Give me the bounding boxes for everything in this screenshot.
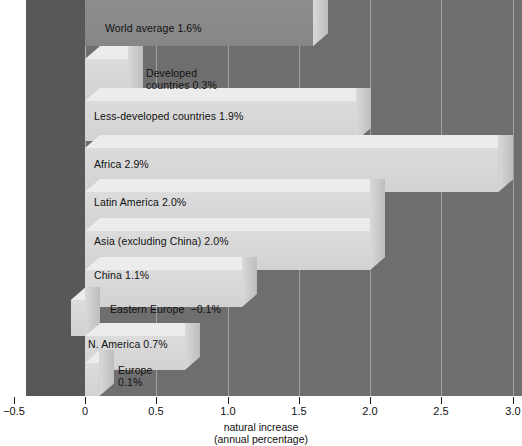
bar-top-face [85, 88, 371, 101]
bar-top-face [85, 179, 385, 192]
tick-label-2.0: 2.0 [362, 405, 377, 417]
tick-mark-1.5 [299, 397, 300, 404]
bar-label-less-developed-countries: Less-developed countries 1.9% [94, 110, 243, 122]
tick-mark-2.0 [370, 397, 371, 404]
tick-mark-neg0.5 [14, 397, 15, 404]
bar-label-africa: Africa 2.9% [94, 158, 149, 170]
natural-increase-bar-chart: World average 1.6%Developed countries 0.… [0, 0, 522, 446]
tick-label-neg0.5: −0.5 [3, 405, 25, 417]
bar-top-face [85, 135, 513, 148]
bar-side-face [313, 0, 328, 46]
tick-mark-0 [85, 397, 86, 404]
bar-eastern-europe [71, 300, 85, 336]
gridline-3.0 [513, 0, 514, 396]
bar-front-face [85, 363, 99, 396]
x-axis-title-line1: natural increase [0, 421, 522, 433]
bar-label-china: China 1.1% [94, 269, 149, 281]
plot-area: World average 1.6%Developed countries 0.… [26, 0, 522, 396]
bar-front-face [71, 300, 85, 336]
tick-mark-0.5 [156, 397, 157, 404]
bar-top-face [85, 323, 200, 336]
tick-label-0.5: 0.5 [148, 405, 163, 417]
bar-side-face [242, 257, 257, 307]
tick-label-1.5: 1.5 [291, 405, 306, 417]
tick-label-3.0: 3.0 [505, 405, 520, 417]
bar-side-face [185, 323, 200, 370]
tick-mark-1.0 [228, 397, 229, 404]
bar-label-asia-excluding-china: Asia (excluding China) 2.0% [94, 235, 229, 247]
bar-side-face [370, 218, 385, 270]
x-axis-line [26, 396, 522, 397]
gridline-2.5 [441, 0, 442, 396]
bar-label-developed-countries: Developed countries 0.3% [146, 67, 217, 91]
negative-region-shading [26, 0, 85, 396]
bar-label-world-average: World average 1.6% [105, 22, 202, 34]
bar-label-n-america: N. America 0.7% [88, 338, 168, 350]
bar-side-face [498, 135, 513, 192]
bar-label-eastern-europe: Eastern Europe −0.1% [110, 303, 221, 315]
tick-mark-2.5 [441, 397, 442, 404]
bar-europe [85, 363, 99, 396]
bar-side-face [99, 350, 114, 396]
bar-label-europe: Europe 0.1% [118, 364, 152, 388]
bar-side-face [356, 88, 371, 141]
tick-mark-3.0 [513, 397, 514, 404]
tick-label-1.0: 1.0 [220, 405, 235, 417]
bar-label-latin-america: Latin America 2.0% [94, 196, 186, 208]
x-axis-title: natural increase (annual percentage) [0, 421, 522, 445]
bar-top-face [85, 218, 385, 231]
tick-label-2.5: 2.5 [433, 405, 448, 417]
tick-label-0: 0 [82, 405, 88, 417]
x-axis-title-line2: (annual percentage) [0, 433, 522, 445]
